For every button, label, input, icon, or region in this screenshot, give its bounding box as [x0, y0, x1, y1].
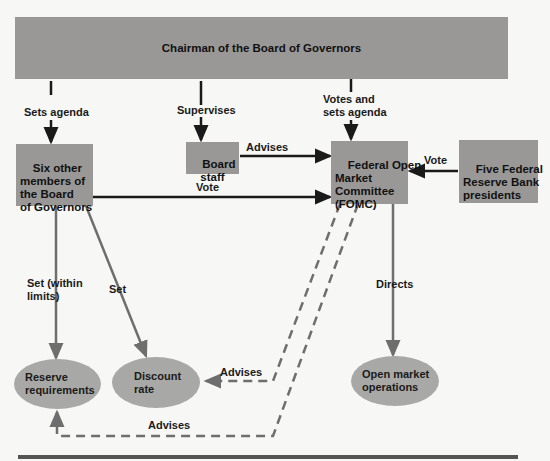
fomc-box: Federal Open Market Committee (FOMC) — [331, 141, 408, 204]
fomc-advises-discount-label: Advises — [220, 366, 262, 379]
five-presidents-label: Five Federal Reserve Bank presidents — [463, 163, 543, 201]
open-market-operations-label: Open market operations — [362, 368, 429, 394]
supervises-label: Supervises — [177, 104, 236, 117]
six-members-label: Six other members of the Board of Govern… — [20, 162, 92, 213]
open-market-operations-node: Open market operations — [351, 356, 439, 406]
board-staff-box: Board staff — [186, 142, 239, 174]
set-label: Set — [109, 283, 126, 296]
discount-rate-label: Discount rate — [134, 370, 181, 396]
votes-sets-agenda-label: Votes and sets agenda — [323, 93, 387, 119]
six-members-vote-label: Vote — [196, 181, 219, 194]
fomc-advises-reserve-label: Advises — [148, 419, 190, 432]
fed-structure-diagram: Chairman of the Board of Governors Six o… — [0, 0, 550, 461]
chairman-label: Chairman of the Board of Governors — [162, 42, 361, 55]
six-members-box: Six other members of the Board of Govern… — [16, 144, 93, 206]
reserve-requirements-label: Reserve requirements — [25, 371, 95, 397]
directs-label: Directs — [376, 278, 413, 291]
presidents-vote-label: Vote — [424, 154, 447, 167]
board-staff-advises-label: Advises — [246, 141, 288, 154]
reserve-requirements-node: Reserve requirements — [14, 359, 101, 409]
five-presidents-box: Five Federal Reserve Bank presidents — [459, 140, 538, 203]
chairman-box: Chairman of the Board of Governors — [15, 17, 508, 79]
sets-agenda-label: Sets agenda — [24, 106, 89, 119]
set-within-limits-label: Set (within limits) — [27, 277, 83, 303]
discount-rate-node: Discount rate — [112, 357, 200, 408]
